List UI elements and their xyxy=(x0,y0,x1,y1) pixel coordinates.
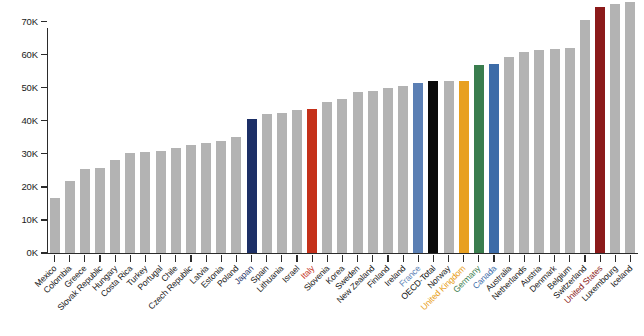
bar xyxy=(125,153,135,253)
x-axis-tick xyxy=(448,255,449,262)
x-axis-tick xyxy=(554,255,555,262)
x-axis-tick xyxy=(236,255,237,262)
bars-layer xyxy=(47,6,638,253)
bar xyxy=(353,92,363,253)
x-axis-tick xyxy=(175,255,176,262)
x-axis-tick xyxy=(387,255,388,262)
bar xyxy=(65,181,75,253)
y-axis-tick-label: 50K xyxy=(0,83,38,93)
bar xyxy=(504,57,514,253)
bar xyxy=(474,65,484,253)
bar xyxy=(550,49,560,253)
bar xyxy=(595,7,605,253)
bar xyxy=(277,113,287,253)
x-axis-tick xyxy=(493,255,494,262)
bar-chart: 0K10K20K30K40K50K60K70K MexicoColombiaGr… xyxy=(0,0,644,336)
x-axis-tick xyxy=(296,255,297,262)
bar xyxy=(171,148,181,253)
y-axis-tick-label: 60K xyxy=(0,50,38,60)
bar xyxy=(216,141,226,253)
bar xyxy=(489,64,499,253)
bar xyxy=(565,48,575,253)
x-axis-tick xyxy=(99,255,100,262)
x-axis-tick xyxy=(403,255,404,262)
bar xyxy=(50,198,60,253)
bar xyxy=(444,81,454,253)
x-axis-tick xyxy=(342,255,343,262)
bar xyxy=(231,137,241,253)
x-axis-tick xyxy=(630,255,631,262)
x-axis-tick xyxy=(145,255,146,262)
x-axis-tick xyxy=(478,255,479,262)
x-axis-tick xyxy=(54,255,55,262)
bar xyxy=(519,52,529,253)
bar xyxy=(110,160,120,253)
x-axis-tick xyxy=(115,255,116,262)
x-axis-tick xyxy=(312,255,313,262)
bar xyxy=(80,169,90,253)
bar xyxy=(292,110,302,253)
x-axis-tick xyxy=(584,255,585,262)
y-axis-tick-label: 0K xyxy=(0,248,38,258)
bar xyxy=(428,81,438,253)
x-axis-tick xyxy=(569,255,570,262)
x-axis-tick xyxy=(206,255,207,262)
bar xyxy=(580,20,590,253)
x-axis-tick xyxy=(372,255,373,262)
bar xyxy=(534,50,544,253)
bar xyxy=(368,91,378,253)
bar xyxy=(186,145,196,253)
x-axis-tick xyxy=(433,255,434,262)
bar xyxy=(398,86,408,253)
x-axis-tick xyxy=(69,255,70,262)
x-axis-tick xyxy=(130,255,131,262)
bar xyxy=(383,88,393,253)
bar xyxy=(459,81,469,253)
x-axis-tick xyxy=(615,255,616,262)
x-axis-tick xyxy=(509,255,510,262)
bar xyxy=(322,102,332,253)
bar xyxy=(247,119,257,253)
x-axis-tick xyxy=(160,255,161,262)
bar xyxy=(610,4,620,253)
y-axis-tick-label: 70K xyxy=(0,17,38,27)
bar xyxy=(156,151,166,253)
bar xyxy=(625,2,635,253)
x-axis-tick xyxy=(524,255,525,262)
y-axis-tick-label: 10K xyxy=(0,215,38,225)
x-axis-tick xyxy=(357,255,358,262)
x-axis-tick xyxy=(418,255,419,262)
y-axis-tick-label: 20K xyxy=(0,182,38,192)
y-axis-tick-label: 30K xyxy=(0,149,38,159)
bar xyxy=(95,168,105,253)
x-axis-tick xyxy=(281,255,282,262)
x-axis-tick xyxy=(190,255,191,262)
x-axis-tick xyxy=(221,255,222,262)
bar xyxy=(201,143,211,253)
x-axis-tick xyxy=(600,255,601,262)
bar xyxy=(140,152,150,254)
y-axis-tick-label: 40K xyxy=(0,116,38,126)
x-axis-tick xyxy=(327,255,328,262)
x-axis-tick xyxy=(463,255,464,262)
x-axis-tick xyxy=(539,255,540,262)
bar xyxy=(307,109,317,253)
x-axis-tick xyxy=(266,255,267,262)
bar xyxy=(262,114,272,253)
bar xyxy=(337,99,347,253)
x-axis-tick xyxy=(84,255,85,262)
bar xyxy=(413,83,423,253)
x-axis-tick xyxy=(251,255,252,262)
